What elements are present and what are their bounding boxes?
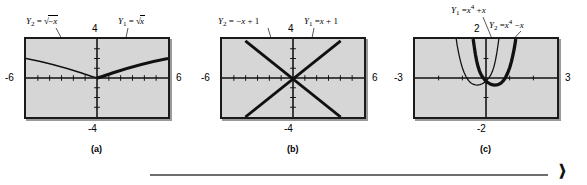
exponent-four: 4 xyxy=(509,18,513,26)
minus-sign: − xyxy=(236,16,241,26)
panel-b: Y2 = −x + 1 Y1 =x + 1 4 -6 6 -4 xyxy=(196,0,392,160)
y2-radicand: −x xyxy=(48,15,58,26)
y2-symbol: Y2 xyxy=(218,16,227,26)
panel-b-axis-top: 4 xyxy=(288,24,294,34)
y1-subscript: 1 xyxy=(456,9,460,17)
y2-symbol: Y2 xyxy=(26,16,35,26)
panel-a-axis-top: 4 xyxy=(92,24,98,34)
y2-subscript: 2 xyxy=(494,24,498,32)
y1-symbol: Y1 xyxy=(304,16,313,26)
equals-sign: = xyxy=(37,16,42,26)
panel-b-plot-area xyxy=(220,37,366,119)
panel-a-axis-right: 6 xyxy=(176,73,182,83)
plus-sign: + xyxy=(477,5,482,15)
panel-c-axis-left: -3 xyxy=(394,73,403,83)
panel-a-curve-label-y1: Y1 = √x xyxy=(118,17,145,26)
panel-c-plot-svg xyxy=(415,39,557,117)
panel-c-axis-top: 2 xyxy=(474,24,480,34)
y1-radicand: x xyxy=(140,15,145,26)
y1-symbol: Y1 xyxy=(118,16,127,26)
panel-b-axis-bottom: -4 xyxy=(284,124,293,134)
y2-subscript: 2 xyxy=(223,20,227,28)
panel-b-axis-left: -6 xyxy=(201,73,210,83)
panel-a-axis-left: -6 xyxy=(5,73,14,83)
y1-subscript: 1 xyxy=(123,20,127,28)
bottom-divider-rule xyxy=(150,174,548,176)
panel-c-axis-bottom: -2 xyxy=(477,124,486,134)
panel-b-plot-svg xyxy=(222,39,364,117)
panel-b-caption: (b) xyxy=(287,145,299,154)
plus-sign: + xyxy=(247,16,252,26)
panel-c-caption: (c) xyxy=(480,145,491,154)
equals-sign: = xyxy=(315,16,320,26)
panel-a-axis-bottom: -4 xyxy=(88,124,97,134)
constant-one: 1 xyxy=(333,16,338,26)
equals-sign: = xyxy=(129,16,134,26)
equals-sign: = xyxy=(229,16,234,26)
y2-subscript: 2 xyxy=(31,20,35,28)
y1-subscript: 1 xyxy=(309,20,313,28)
curve-y1-sqrt-x xyxy=(97,59,168,79)
end-marker-icon: ❱ xyxy=(557,163,567,178)
panel-b-curve-label-y1: Y1 =x + 1 xyxy=(304,17,338,26)
panel-c-plot-area xyxy=(413,37,559,119)
figure-row: Y2 = √−x Y1 = √x 4 -6 6 -4 xyxy=(0,0,587,160)
minus-sign: − xyxy=(48,16,53,26)
panel-c-curve-label-y1: Y1 =x4 +x xyxy=(451,6,486,15)
panel-a: Y2 = √−x Y1 = √x 4 -6 6 -4 xyxy=(0,0,196,160)
minus-sign: − xyxy=(515,20,520,30)
curve-y2-sqrt-neg-x xyxy=(26,59,97,79)
panel-a-plot-area xyxy=(24,37,170,119)
plus-sign: + xyxy=(326,16,331,26)
y2-symbol: Y2 xyxy=(489,20,498,30)
panel-a-caption: (a) xyxy=(91,145,102,154)
equals-sign: = xyxy=(462,5,467,15)
panel-b-curve-label-y2: Y2 = −x + 1 xyxy=(218,17,259,26)
panel-c-axis-right: 3 xyxy=(565,73,571,83)
panel-b-axis-right: 6 xyxy=(372,73,378,83)
exponent-four: 4 xyxy=(471,3,475,11)
constant-one: 1 xyxy=(255,16,260,26)
panel-c: Y1 =x4 +x Y2 =x4 −x 2 -3 3 -2 xyxy=(391,0,587,160)
panel-c-curve-label-y2: Y2 =x4 −x xyxy=(489,21,524,30)
equals-sign: = xyxy=(500,20,505,30)
panel-a-plot-svg xyxy=(26,39,168,117)
panel-a-curve-label-y2: Y2 = √−x xyxy=(26,17,58,26)
y1-symbol: Y1 xyxy=(451,5,460,15)
